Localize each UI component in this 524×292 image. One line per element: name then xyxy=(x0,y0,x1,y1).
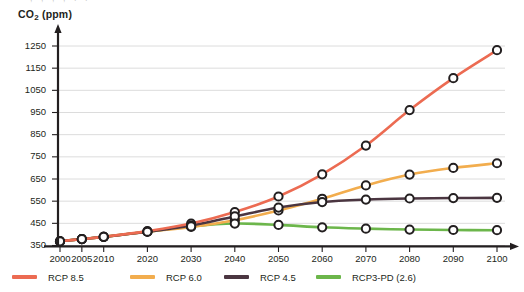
data-point-marker xyxy=(143,228,151,236)
y-axis-tick-label: 450 xyxy=(12,217,46,228)
legend-color-swatch xyxy=(224,275,249,279)
legend-item-rcp-8-5[interactable]: RCP 8.5 xyxy=(12,268,84,286)
data-point-marker xyxy=(187,222,195,230)
data-point-marker xyxy=(318,170,326,178)
co2-concentration-chart: , , , , . . CO2 (ppm) 350450550650750850… xyxy=(0,0,524,292)
axis-lines xyxy=(44,24,519,250)
x-axis-tick-label: 2030 xyxy=(169,253,213,264)
data-point-marker xyxy=(406,225,414,233)
legend-item-rcp-6-0[interactable]: RCP 6.0 xyxy=(130,268,202,286)
gridlines xyxy=(58,46,505,246)
data-point-marker xyxy=(78,235,86,243)
data-point-marker xyxy=(231,219,239,227)
data-point-marker xyxy=(493,46,501,54)
legend-item-rcp3-pd-2-6[interactable]: RCP3-PD (2.6) xyxy=(316,268,416,286)
data-point-marker xyxy=(274,192,282,200)
data-point-marker xyxy=(406,170,414,178)
data-point-marker xyxy=(274,203,282,211)
y-axis-tick-label: 550 xyxy=(12,195,46,206)
data-point-marker xyxy=(318,223,326,231)
legend-label: RCP 4.5 xyxy=(260,272,296,283)
legend-label: RCP3-PD (2.6) xyxy=(352,272,416,283)
data-point-marker xyxy=(100,233,108,241)
data-point-marker xyxy=(274,221,282,229)
x-axis-tick-label: 2020 xyxy=(125,253,169,264)
legend-label: RCP 6.0 xyxy=(166,272,202,283)
data-point-marker xyxy=(362,141,370,149)
x-axis-tick-label: 2070 xyxy=(344,253,388,264)
data-point-marker xyxy=(449,74,457,82)
data-point-marker xyxy=(449,164,457,172)
data-point-marker xyxy=(362,225,370,233)
data-point-marker xyxy=(449,194,457,202)
data-point-marker xyxy=(362,181,370,189)
y-axis-tick-label: 1050 xyxy=(12,84,46,95)
x-axis-tick-label: 2080 xyxy=(388,253,432,264)
data-point-marker xyxy=(493,194,501,202)
y-axis-tick-label: 1250 xyxy=(12,40,46,51)
legend-color-swatch xyxy=(12,275,37,279)
y-axis-tick-label: 650 xyxy=(12,173,46,184)
y-axis-tick-label: 950 xyxy=(12,106,46,117)
y-axis-tick-label: 1150 xyxy=(12,62,46,73)
legend-label: RCP 8.5 xyxy=(48,272,84,283)
legend-color-swatch xyxy=(316,275,341,279)
data-point-marker xyxy=(449,226,457,234)
data-point-marker xyxy=(493,159,501,167)
data-point-marker xyxy=(318,198,326,206)
chart-plot-area xyxy=(0,0,524,292)
data-point-marker xyxy=(493,226,501,234)
data-point-marker xyxy=(406,194,414,202)
x-axis-tick-label: 2050 xyxy=(257,253,301,264)
data-point-marker xyxy=(406,106,414,114)
x-axis-tick-label: 2090 xyxy=(431,253,475,264)
x-axis-tick-label: 2060 xyxy=(300,253,344,264)
x-axis-tick-label: 2040 xyxy=(213,253,257,264)
x-axis-tick-label: 2010 xyxy=(82,253,126,264)
x-axis-tick-label: 2100 xyxy=(475,253,519,264)
chart-legend: RCP 8.5RCP 6.0RCP 4.5RCP3-PD (2.6) xyxy=(0,268,524,292)
y-axis-tick-label: 850 xyxy=(12,128,46,139)
y-axis-tick-label: 750 xyxy=(12,150,46,161)
legend-color-swatch xyxy=(130,275,155,279)
legend-item-rcp-4-5[interactable]: RCP 4.5 xyxy=(224,268,296,286)
series-markers xyxy=(56,46,501,245)
y-axis-tick-label: 350 xyxy=(12,239,46,250)
data-point-marker xyxy=(362,196,370,204)
